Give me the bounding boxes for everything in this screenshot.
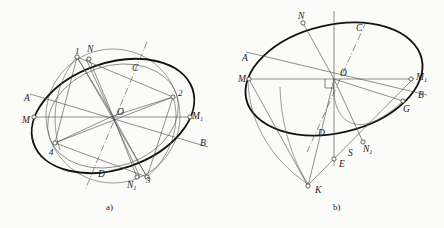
label-b-C: C [356, 23, 363, 33]
axis-CD-b [307, 22, 366, 152]
diagram-b: N C A O M M1 B G D N1 S E K b) [234, 6, 434, 212]
label-a-two: 2 [178, 88, 183, 98]
point-2-a [171, 95, 175, 99]
label-b-E: E [338, 159, 345, 169]
label-a-one: 1 [75, 46, 80, 56]
label-b-B: B [418, 90, 424, 100]
label-b-N1-sub: 1 [369, 148, 372, 155]
labels-b: N C A O M M1 B G D N1 S E K [237, 11, 427, 195]
caption-b: b) [333, 202, 341, 212]
chord-1-4-a [55, 57, 77, 143]
geometry-figure: 1 N C 2 A M M1 O B 4 D N1 3 a) [0, 0, 444, 228]
point-N-a [87, 57, 91, 61]
chord-1-2-a [77, 57, 173, 97]
ray-O-3-a [113, 116, 147, 177]
label-b-M: M [237, 74, 247, 84]
chord-2-3-a [147, 97, 173, 177]
point-M-b [247, 77, 251, 81]
caption-a: a) [106, 202, 113, 212]
label-a-M: M [21, 115, 31, 125]
label-a-A: A [23, 93, 30, 103]
label-a-N1: N1 [126, 180, 137, 191]
label-b-G: G [403, 104, 410, 114]
label-a-C: C [132, 63, 139, 73]
label-b-D: D [317, 128, 325, 138]
axis-AB-b [246, 52, 427, 95]
label-a-three: 3 [145, 175, 151, 185]
label-a-B: B [200, 138, 206, 148]
diameter-NN1-a [86, 59, 140, 177]
label-b-A: A [241, 53, 248, 63]
point-K-b [306, 184, 310, 188]
label-a-four: 4 [49, 147, 54, 157]
label-b-O: O [340, 68, 347, 78]
label-b-N1: N1 [362, 144, 373, 155]
ray-O-G-b [334, 79, 403, 101]
point-4-a [53, 141, 57, 145]
label-b-S: S [348, 148, 353, 158]
point-E-b [332, 157, 336, 161]
arc-right-a [147, 97, 176, 177]
label-b-K: K [314, 185, 322, 195]
point-M-a [32, 115, 36, 119]
ray-O-4-a [55, 116, 113, 143]
label-a-M1: M1 [191, 111, 203, 122]
label-a-N1-sub: 1 [133, 184, 136, 191]
line-M-K-b [250, 81, 308, 186]
label-b-M1: M1 [415, 72, 427, 83]
point-G-b [401, 99, 405, 103]
point-N-b [301, 21, 305, 25]
ray-O-N-b [303, 23, 334, 79]
diagram-a: 1 N C 2 A M M1 O B 4 D N1 3 a) [16, 39, 209, 212]
label-b-M1-sub: 1 [424, 76, 427, 83]
label-a-M1-sub: 1 [200, 115, 203, 122]
label-b-N: N [297, 11, 305, 21]
label-a-O: O [117, 107, 124, 117]
label-a-N: N [86, 44, 94, 54]
label-a-D: D [97, 169, 105, 179]
point-N1-a [135, 175, 139, 179]
point-M1-b [409, 77, 413, 81]
chord-2-4-a [55, 97, 173, 143]
